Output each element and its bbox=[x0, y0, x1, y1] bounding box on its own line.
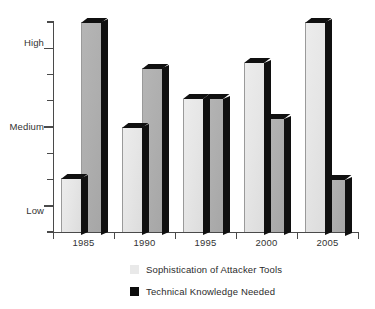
legend-item-sophistication: Sophistication of Attacker Tools bbox=[130, 262, 282, 276]
x-axis-tick-label: 1995 bbox=[179, 237, 233, 248]
y-axis-tick-label: High bbox=[0, 38, 44, 48]
bar-1995-sophistication bbox=[183, 99, 203, 232]
plot-area: HighMediumLow 19851990199520002005 bbox=[0, 0, 375, 250]
x-axis-tick bbox=[236, 232, 237, 239]
bar-2000-sophistication bbox=[244, 63, 264, 232]
bar-side-face bbox=[345, 176, 352, 235]
y-axis-minor-tick bbox=[47, 21, 54, 22]
y-axis-major-tick bbox=[44, 48, 54, 50]
bar-side-face bbox=[203, 96, 210, 235]
x-axis-tick-label: 1990 bbox=[118, 237, 172, 248]
bar-side-face bbox=[162, 65, 169, 235]
bar-side-face bbox=[81, 175, 88, 235]
bar-front-face bbox=[305, 22, 326, 232]
bar-1985-sophistication bbox=[61, 178, 81, 232]
legend-label: Sophistication of Attacker Tools bbox=[146, 264, 282, 275]
bar-side-face bbox=[142, 124, 149, 235]
bar-1990-sophistication bbox=[122, 127, 142, 232]
bar-front-face bbox=[183, 99, 204, 232]
x-axis-tick bbox=[175, 232, 176, 239]
y-axis-minor-tick bbox=[47, 74, 54, 75]
x-axis-tick bbox=[114, 232, 115, 239]
bar-front-face bbox=[122, 127, 143, 232]
bar-chart: HighMediumLow 19851990199520002005 Sophi… bbox=[0, 0, 375, 309]
y-axis-minor-tick bbox=[47, 179, 54, 180]
y-axis-tick-label: Medium bbox=[0, 122, 44, 132]
bar-side-face bbox=[264, 60, 271, 235]
y-axis-major-tick bbox=[44, 205, 54, 207]
legend-item-knowledge: Technical Knowledge Needed bbox=[130, 284, 275, 298]
bar-side-face bbox=[284, 115, 291, 235]
x-axis-tick-label: 2005 bbox=[301, 237, 355, 248]
x-axis-tick-label: 1985 bbox=[57, 237, 111, 248]
bar-side-face bbox=[325, 19, 332, 235]
bar-side-face bbox=[101, 19, 108, 235]
x-axis-tick bbox=[297, 232, 298, 239]
chart-legend: Sophistication of Attacker Tools Technic… bbox=[0, 252, 375, 309]
bar-side-face bbox=[223, 96, 230, 235]
bar-front-face bbox=[61, 178, 82, 232]
dark-swatch-icon bbox=[130, 287, 139, 296]
x-axis-tick bbox=[53, 232, 54, 239]
y-axis-major-tick bbox=[44, 126, 54, 128]
y-axis-minor-tick bbox=[47, 153, 54, 154]
light-swatch-icon bbox=[130, 265, 139, 274]
x-axis-tick-label: 2000 bbox=[240, 237, 294, 248]
y-axis-minor-tick bbox=[47, 100, 54, 101]
y-axis-tick-label: Low bbox=[0, 206, 44, 216]
legend-label: Technical Knowledge Needed bbox=[146, 286, 275, 297]
x-axis-tick bbox=[358, 232, 359, 239]
bar-2005-sophistication bbox=[305, 22, 325, 232]
bar-front-face bbox=[244, 63, 265, 232]
